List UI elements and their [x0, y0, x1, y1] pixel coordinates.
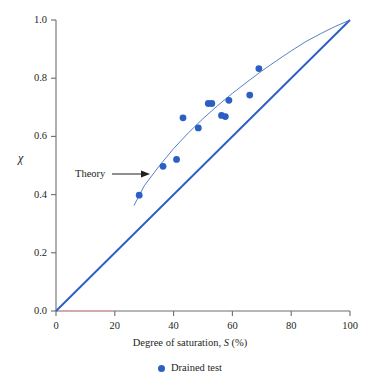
- legend-label-drained-test: Drained test: [171, 363, 222, 374]
- x-tick-label: 60: [212, 321, 252, 332]
- data-point: [136, 192, 143, 199]
- x-axis-title: Degree of saturation, S (%): [0, 338, 380, 349]
- data-point: [255, 65, 262, 72]
- y-tick-label: 0.2: [11, 248, 47, 259]
- x-axis-title-units: (%): [232, 337, 248, 348]
- chart-legend: Drained test: [0, 363, 380, 374]
- x-axis-title-main: Degree of saturation,: [133, 337, 221, 348]
- data-point: [180, 114, 187, 121]
- data-point: [246, 92, 253, 99]
- y-axis-title: χ: [18, 152, 23, 164]
- theory-annotation-label: Theory: [75, 169, 105, 180]
- x-axis-title-symbol: S: [224, 337, 229, 348]
- data-point: [173, 156, 180, 163]
- theory-curve: [134, 20, 350, 206]
- x-tick-label: 0: [36, 321, 76, 332]
- x-tick-label: 40: [154, 321, 194, 332]
- y-tick-label: 0.4: [11, 190, 47, 201]
- theory-arrow: [112, 170, 150, 177]
- y-tick-label: 0.6: [11, 131, 47, 142]
- x-tick-label: 80: [271, 321, 311, 332]
- data-point: [208, 100, 215, 107]
- data-point: [225, 97, 232, 104]
- x-axis-ticks: [56, 311, 350, 316]
- x-tick-label: 20: [95, 321, 135, 332]
- legend-marker-drained-test: [158, 365, 165, 372]
- data-point: [160, 163, 167, 170]
- plot-canvas: [0, 0, 380, 390]
- y-tick-label: 0.8: [11, 73, 47, 84]
- x-tick-label: 100: [330, 321, 370, 332]
- y-axis-ticks: [51, 20, 56, 311]
- y-tick-label: 0.0: [11, 306, 47, 317]
- data-point: [222, 113, 229, 120]
- chart-figure: χ Theory Degree of saturation, S (%) Dra…: [0, 0, 380, 390]
- y-tick-label: 1.0: [11, 15, 47, 26]
- data-point: [195, 125, 202, 132]
- one-to-one-line: [56, 20, 350, 311]
